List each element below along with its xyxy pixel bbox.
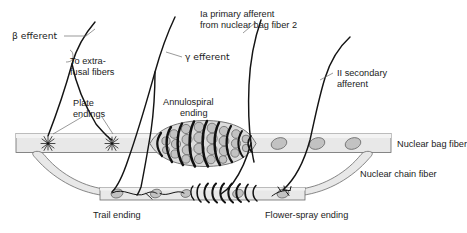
label-annulospiral-line1: Annulospiral (163, 97, 214, 107)
label-ii-secondary-line1: II secondary (337, 68, 387, 78)
label-flower-spray-ending: Flower-spray ending (265, 210, 348, 220)
label-to-extrafusal-line2: fusal fibers (70, 67, 115, 77)
label-ia-primary-line2: from nuclear bag fiber 2 (200, 20, 297, 30)
annulospiral-ending-bulge (150, 121, 256, 167)
ii-secondary-afferent-nerve (283, 37, 350, 190)
label-ia-primary-line1: Ia primary afferent (200, 9, 275, 19)
ia-primary-afferent-nerve (221, 20, 261, 194)
label-to-extrafusal-line1: To extra- (70, 56, 106, 66)
muscle-spindle-diagram: β efferent To extra- fusal fibers Plate … (0, 0, 467, 233)
label-nuclear-chain-fiber: Nuclear chain fiber (360, 169, 437, 179)
beta-efferent-nerve (48, 22, 112, 140)
label-beta-efferent: β efferent (12, 30, 57, 41)
label-ii-secondary-line2: afferent (337, 79, 368, 89)
label-plate-endings-line2: endings (73, 109, 106, 119)
label-gamma-efferent: γ efferent (185, 51, 230, 62)
label-trail-ending: Trail ending (93, 210, 141, 220)
label-nuclear-bag-fiber: Nuclear bag fiber (397, 139, 467, 149)
label-plate-endings-line1: Plate (73, 98, 94, 108)
label-annulospiral-line2: ending (180, 108, 208, 118)
